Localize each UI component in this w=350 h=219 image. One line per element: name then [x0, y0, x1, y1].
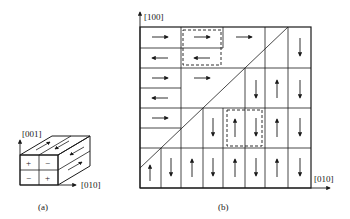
axis-100-label: [100]	[144, 12, 164, 22]
diagram-canvas: [001] [010] + − − + (a) [100] [010]	[0, 0, 350, 219]
dashed-box-top	[183, 30, 221, 65]
caption-b: (b)	[218, 202, 229, 212]
axis-010-label-b: [010]	[314, 174, 334, 184]
panel-a: [001] [010] + − − + (a)	[20, 129, 101, 212]
dashed-box-mid	[227, 110, 262, 146]
sign-top-left: +	[26, 158, 31, 168]
top-arrow-1-icon	[36, 142, 50, 150]
grid-frame	[140, 27, 311, 188]
sign-top-right: −	[45, 158, 50, 168]
sign-bottom-left: −	[26, 173, 31, 183]
panel-b: [100] [010]	[140, 12, 334, 212]
axis-010-label: [010]	[81, 180, 101, 190]
side-arrow-1-icon	[70, 147, 84, 155]
caption-a: (a)	[38, 202, 48, 212]
sign-bottom-right: +	[45, 173, 50, 183]
top-arrow-2-icon	[55, 141, 69, 149]
axis-001-label: [001]	[22, 129, 42, 139]
